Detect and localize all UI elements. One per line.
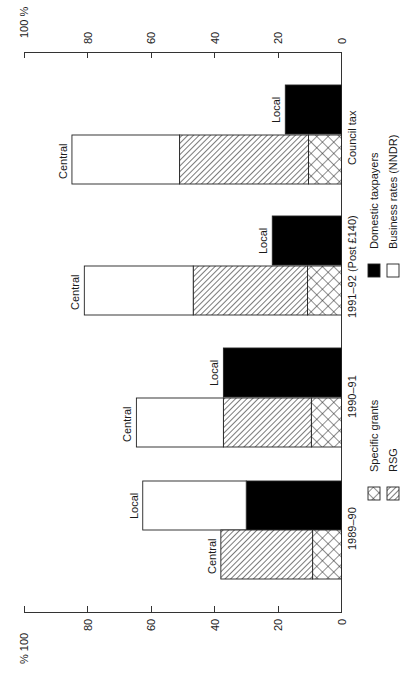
rotated-stacked-bar-chart: 002020404060608080 LocalCentral1989–90Lo…: [0, 0, 413, 684]
bottom-axis-unit: % 100: [18, 633, 30, 664]
top-axis-unit: 100 %: [18, 7, 30, 38]
legend-swatch: [368, 264, 380, 277]
legend-swatch: [368, 487, 380, 500]
legend-swatch: [387, 487, 399, 500]
legend: [0, 0, 413, 684]
legend-swatch: [387, 264, 399, 277]
